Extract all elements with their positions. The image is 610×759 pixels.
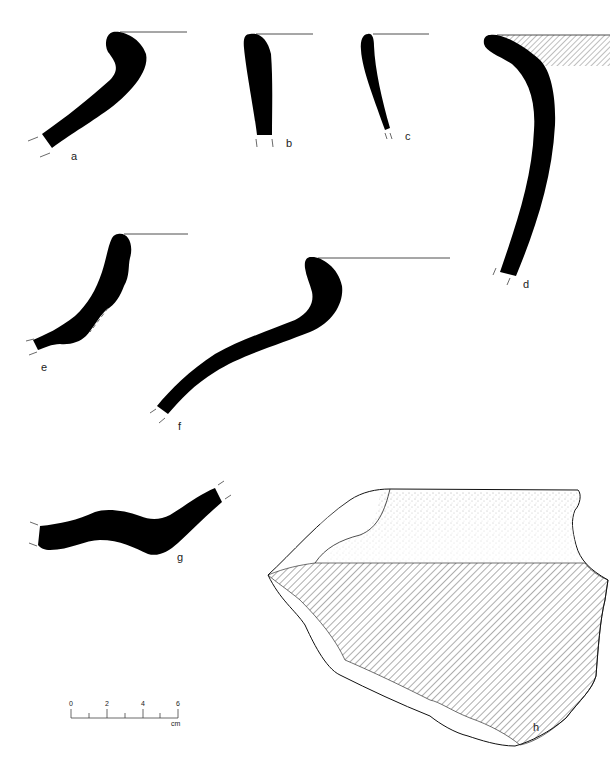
label-f: f [178,420,182,432]
sherd-section-c [361,34,390,130]
fragment-h: h [268,489,608,746]
label-c: c [405,130,411,142]
sherd-section-d [484,35,555,276]
profile-c: c [361,34,429,142]
scale-label-0: 0 [69,700,73,707]
sherd-section-f [157,257,342,414]
break-tick-g2 [29,543,37,546]
scale-unit: cm [171,720,181,727]
stipple-fade-h [320,492,580,562]
break-tick-b2 [272,139,273,147]
sherd-section-e [33,234,131,350]
break-tick-g4 [225,495,231,499]
break-tick-d1 [493,268,496,275]
profile-e: e [26,234,188,373]
profile-f: f [150,257,450,432]
sherd-section-b [244,34,273,135]
label-h: h [533,721,539,733]
break-tick-g3 [218,481,224,485]
break-tick-e2 [29,352,37,355]
break-tick-g1 [30,522,38,525]
scale-label-6: 6 [176,700,180,707]
break-tick-e1 [26,339,34,341]
profile-d: d [484,35,610,290]
label-d: d [523,278,529,290]
profile-b: b [244,34,313,149]
break-tick-c2 [390,133,392,139]
break-tick-a1 [28,137,38,141]
break-tick-d2 [507,278,510,285]
scale-label-4: 4 [141,700,145,707]
label-g: g [177,551,183,563]
pottery-profiles-figure: a b c d e f [0,0,610,759]
break-tick-a2 [40,153,50,157]
sherd-section-a [42,32,146,148]
break-tick-b1 [256,139,257,147]
profile-g: g [29,481,231,563]
profile-a: a [28,32,187,162]
label-e: e [41,361,47,373]
break-tick-c1 [385,133,387,139]
scale-label-2: 2 [105,700,109,707]
sherd-section-g [38,488,222,555]
break-tick-f2 [159,418,165,423]
label-a: a [71,150,78,162]
label-b: b [286,137,292,149]
scale-bar: 0 2 4 6 cm [69,700,181,727]
break-tick-f1 [150,409,156,413]
